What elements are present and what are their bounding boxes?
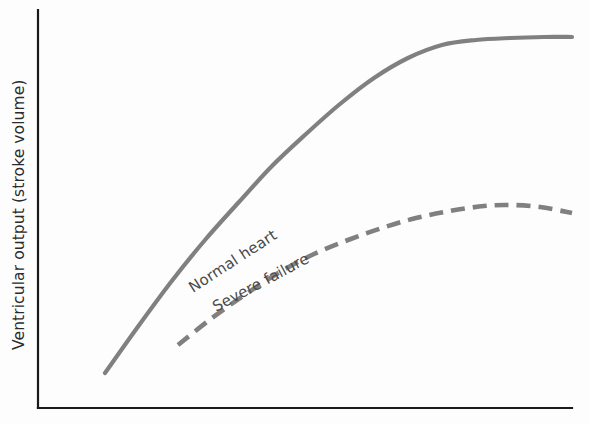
chart-canvas: Ventricular output (stroke volume) Norma…	[0, 0, 589, 424]
chart-background	[0, 0, 589, 424]
chart-figure: Ventricular output (stroke volume) Norma…	[0, 0, 589, 424]
y-axis-title: Ventricular output (stroke volume)	[10, 80, 28, 351]
